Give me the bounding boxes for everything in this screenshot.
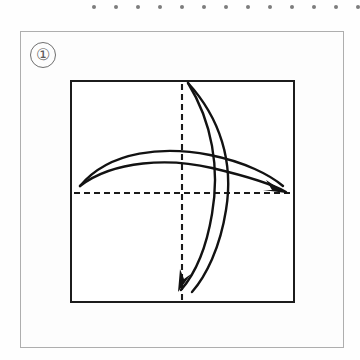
perforation-dot [202, 5, 206, 9]
fold-diagram [70, 80, 295, 303]
perforation-dot [224, 5, 228, 9]
perforation-dot [180, 5, 184, 9]
vertical-arrow-stroke-right [188, 83, 228, 292]
perforation-dot [114, 5, 118, 9]
step-number-badge: ① [30, 42, 56, 68]
perforation-dot [356, 5, 360, 9]
perforation-dot [136, 5, 140, 9]
figure-page: ① [0, 0, 360, 360]
vertical-fold-arrow [178, 83, 228, 292]
perforation-dot [312, 5, 316, 9]
perforation-dot [334, 5, 338, 9]
perforation-dot [246, 5, 250, 9]
perforation-dot [290, 5, 294, 9]
dotted-edge-strip [0, 0, 360, 18]
perforation-dot [158, 5, 162, 9]
perforation-dot [268, 5, 272, 9]
perforation-dot [92, 5, 96, 9]
